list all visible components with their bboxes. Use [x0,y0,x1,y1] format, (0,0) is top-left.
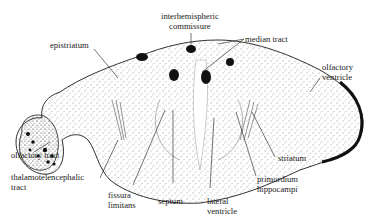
label-line: fissura [108,190,136,200]
olfactory-bulb [19,115,58,170]
label-line: ventricle [207,206,237,216]
label-primordium-hippocampi: primordium hippocampi [257,174,298,194]
label-median-tract: median tract [245,34,288,44]
label-line: interhemispheric [161,11,219,21]
label-thalamotelencephalic-tract: thalamotelencephalic tract [11,172,84,192]
label-line: thalamotelencephalic [11,172,84,182]
label-fissura-limitans: fissura limitans [108,190,136,210]
label-line: ventricle [322,72,353,82]
label-olfactory-tract: olfactory tract [11,150,59,160]
label-line: primordium [257,174,298,184]
label-line: lateral [207,196,237,206]
label-line: tract [11,182,84,192]
label-interhemispheric-commissure: interhemispheric commissure [161,11,219,31]
label-septum: septum [158,196,183,206]
label-striatum: striatum [278,153,306,163]
label-line: limitans [108,200,136,210]
label-lateral-ventricle: lateral ventricle [207,196,237,216]
label-olfactory-ventricle: olfactory ventricle [322,62,353,82]
label-epistriatum: epistriatum [50,40,89,50]
label-line: commissure [161,21,219,31]
label-line: hippocampi [257,184,298,194]
label-line: olfactory [322,62,353,72]
